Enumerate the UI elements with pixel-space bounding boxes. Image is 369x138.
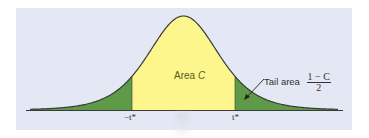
right-critical-value-label: t* bbox=[232, 112, 239, 122]
tail-area-label: Tail area 1 − C 2 bbox=[264, 72, 331, 93]
left-critical-value-label: −t* bbox=[124, 112, 136, 122]
center-area-label: Area C bbox=[174, 70, 205, 81]
tail-fraction: 1 − C 2 bbox=[307, 72, 331, 93]
scan-artifact bbox=[176, 112, 190, 136]
center-area-region bbox=[132, 16, 235, 110]
